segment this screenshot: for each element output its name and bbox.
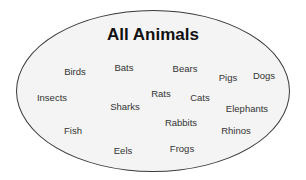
set-member-rats: Rats: [151, 88, 171, 99]
venn-diagram: All Animals BirdsBatsBearsPigsDogsInsect…: [0, 0, 306, 180]
set-member-rabbits: Rabbits: [165, 117, 197, 128]
set-member-cats: Cats: [190, 92, 210, 103]
set-member-bats: Bats: [114, 62, 133, 73]
set-member-fish: Fish: [64, 125, 82, 136]
set-member-insects: Insects: [37, 92, 67, 103]
set-member-bears: Bears: [173, 63, 198, 74]
set-member-birds: Birds: [64, 66, 86, 77]
set-member-eels: Eels: [114, 145, 132, 156]
set-member-frogs: Frogs: [170, 143, 194, 154]
set-member-pigs: Pigs: [219, 72, 237, 83]
set-member-rhinos: Rhinos: [221, 125, 251, 136]
set-member-sharks: Sharks: [110, 101, 140, 112]
set-title: All Animals: [0, 25, 306, 45]
set-member-dogs: Dogs: [253, 70, 275, 81]
set-member-elephants: Elephants: [226, 103, 268, 114]
